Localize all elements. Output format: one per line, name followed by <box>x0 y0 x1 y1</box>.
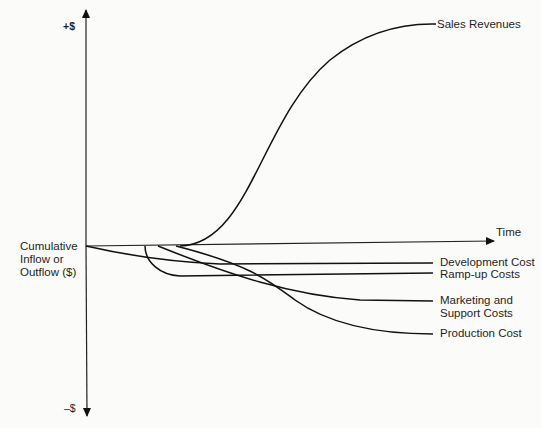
marketing-support-label: Marketing and Support Costs <box>440 294 513 320</box>
ramp-up-costs-curve <box>145 246 433 276</box>
chart-canvas <box>0 0 541 428</box>
sales-revenues-curve <box>180 24 436 246</box>
sales-revenues-label: Sales Revenues <box>437 18 521 31</box>
y-axis-title: Cumulative Inflow or Outflow ($) <box>20 240 78 279</box>
y-axis-bottom-label: –$ <box>64 402 76 415</box>
ramp-up-costs-label: Ramp-up Costs <box>440 268 520 281</box>
y-axis-top-label: +$ <box>63 20 75 33</box>
x-axis-title: Time <box>496 226 521 239</box>
development-cost-curve <box>86 246 433 264</box>
y-axis-down <box>86 246 87 416</box>
x-axis <box>86 241 494 246</box>
production-cost-label: Production Cost <box>440 327 522 340</box>
production-cost-curve <box>176 246 433 334</box>
